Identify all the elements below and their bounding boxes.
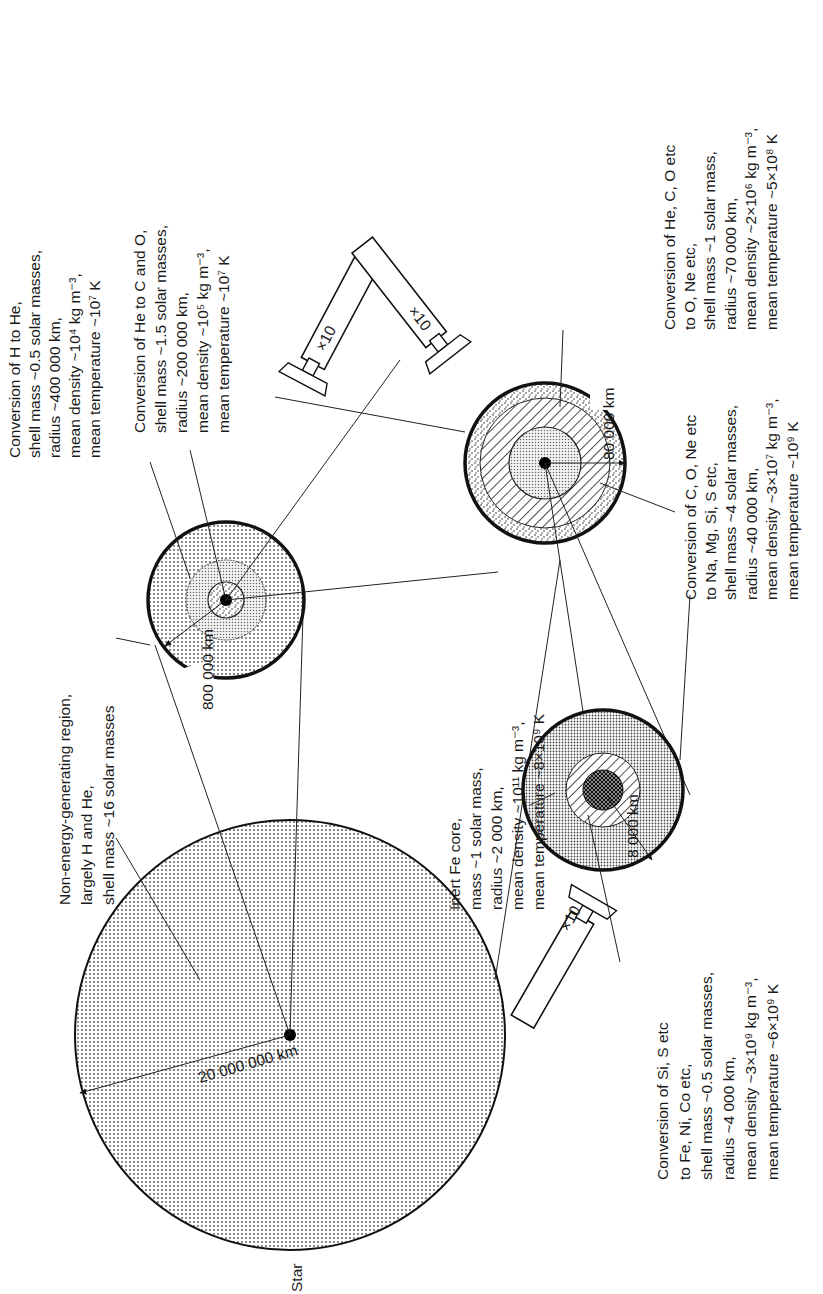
svg-text:radius ~40 000 km,: radius ~40 000 km,	[743, 468, 760, 600]
magnifier-1-radius-label: 800 000 km	[199, 629, 216, 710]
svg-text:shell mass ~1 solar mass,: shell mass ~1 solar mass,	[701, 151, 718, 330]
svg-text:Inert Fe core,: Inert Fe core,	[446, 818, 463, 910]
magnifier-3: ×10	[500, 710, 683, 1035]
svg-text:largely H and He,: largely H and He,	[78, 785, 95, 905]
svg-text:Conversion of Si, S etc: Conversion of Si, S etc	[654, 1022, 671, 1180]
svg-text:to Na, Mg, Si, S etc,: to Na, Mg, Si, S etc,	[702, 462, 719, 600]
star-label: Star	[288, 1264, 305, 1292]
svg-text:shell mass ~16 solar masses: shell mass ~16 solar masses	[100, 705, 117, 905]
svg-text:mean density ~10⁵ kg m⁻³,: mean density ~10⁵ kg m⁻³,	[194, 248, 211, 433]
svg-text:mean temperature ~5×10⁸ K: mean temperature ~5×10⁸ K	[763, 133, 780, 330]
svg-text:to O, Ne etc,: to O, Ne etc,	[681, 243, 698, 330]
svg-text:mean density ~3×10⁹ kg m⁻³,: mean density ~3×10⁹ kg m⁻³,	[742, 978, 759, 1180]
svg-text:shell mass ~4 solar masses,: shell mass ~4 solar masses,	[722, 405, 739, 600]
svg-text:Conversion of H to He,: Conversion of H to He,	[6, 301, 23, 458]
label-cone-to-namgsi: Conversion of C, O, Ne etc to Na, Mg, Si…	[682, 399, 801, 600]
svg-text:mean density ~10¹¹ kg m⁻³,: mean density ~10¹¹ kg m⁻³,	[509, 722, 526, 910]
svg-text:Conversion of He, C, O etc: Conversion of He, C, O etc	[661, 145, 678, 330]
star-structure-diagram: 20 000 000 km Star ×10 800 000 km ×10	[0, 0, 823, 1294]
svg-text:Conversion of C, O, Ne etc: Conversion of C, O, Ne etc	[682, 415, 699, 600]
svg-text:radius ~400 000 km,: radius ~400 000 km,	[46, 317, 63, 458]
svg-text:mean density ~2×10⁶ kg m⁻³,: mean density ~2×10⁶ kg m⁻³,	[742, 128, 759, 330]
magnifier-2: ×10	[342, 229, 625, 543]
svg-text:mean density ~10⁴ kg m⁻³,: mean density ~10⁴ kg m⁻³,	[66, 273, 83, 458]
label-sis-to-feni: Conversion of Si, S etc to Fe, Ni, Co et…	[654, 972, 781, 1180]
label-h-to-he: Conversion of H to He, shell mass ~0.5 s…	[6, 250, 103, 458]
label-he-to-co: Conversion of He to C and O, shell mass …	[131, 225, 232, 433]
svg-text:shell mass ~0.5 solar masses,: shell mass ~0.5 solar masses,	[698, 972, 715, 1180]
svg-text:Non-energy-generating region,: Non-energy-generating region,	[56, 694, 73, 905]
svg-text:radius ~70 000 km,: radius ~70 000 km,	[722, 198, 739, 330]
svg-text:radius ~2 000 km,: radius ~2 000 km,	[488, 786, 505, 910]
label-heco-to-one: Conversion of He, C, O etc to O, Ne etc,…	[661, 128, 780, 330]
svg-text:radius ~4 000 km,: radius ~4 000 km,	[720, 1056, 737, 1180]
svg-text:mean temperature ~10⁷ K: mean temperature ~10⁷ K	[86, 280, 103, 458]
svg-text:Conversion of He to C and O,: Conversion of He to C and O,	[131, 230, 148, 433]
svg-text:mean temperature ~10⁹ K: mean temperature ~10⁹ K	[784, 421, 801, 600]
label-envelope: Non-energy-generating region, largely H …	[56, 694, 117, 905]
svg-text:mass ~1 solar mass,: mass ~1 solar mass,	[467, 767, 484, 910]
svg-text:mean temperature ~8×10⁹ K: mean temperature ~8×10⁹ K	[530, 713, 547, 910]
magnifier-2-radius-label: 80 000 km	[600, 388, 617, 460]
svg-text:to Fe, Ni, Co etc,: to Fe, Ni, Co etc,	[676, 1064, 693, 1180]
svg-text:mean temperature ~6×10⁹ K: mean temperature ~6×10⁹ K	[764, 983, 781, 1180]
svg-text:radius ~200 000 km,: radius ~200 000 km,	[173, 292, 190, 433]
svg-text:mean temperature ~10⁷ K: mean temperature ~10⁷ K	[215, 255, 232, 433]
label-fe-core: Inert Fe core, mass ~1 solar mass, radiu…	[446, 713, 547, 910]
svg-text:shell mass ~0.5 solar masses,: shell mass ~0.5 solar masses,	[26, 250, 43, 458]
svg-text:mean density ~3×10⁷ kg m⁻³,: mean density ~3×10⁷ kg m⁻³,	[763, 399, 780, 600]
magnifier-3-radius-label: 8 000 km	[624, 794, 641, 858]
svg-text:shell mass ~1.5 solar masses,: shell mass ~1.5 solar masses,	[152, 225, 169, 433]
